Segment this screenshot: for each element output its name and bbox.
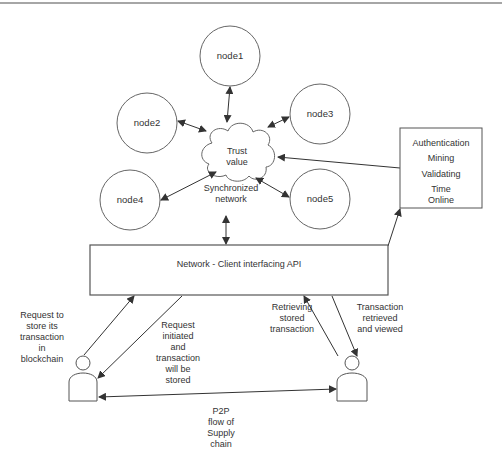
api-label: Network - Client interfacing API [90,259,388,270]
metrics-validating: Validating [400,169,482,180]
diagram-canvas [0,0,502,465]
right-request-line: stored [262,313,322,324]
trust-label-line2: value [217,157,257,168]
edge-api-metrics [388,209,400,246]
node3-label: node3 [290,108,350,120]
metrics-mining: Mining [400,153,482,164]
p2p-label: P2P flow of Supply chain [196,406,246,450]
right-request-label: Retrieving stored transaction [262,302,322,335]
edge-p2p [99,389,336,397]
p2p-line: flow of [196,417,246,428]
api-box [90,245,388,295]
right-request-line: transaction [262,324,322,335]
node5-label: node5 [290,193,350,205]
left-request-line: transaction [14,332,70,343]
node2-label: node2 [117,117,177,129]
right-response-label: Transaction retrieved and viewed [345,302,415,335]
edge-left-request [84,296,134,355]
left-response-line: and [148,342,208,353]
left-response-line: Request [148,320,208,331]
left-request-line: Request to [14,310,70,321]
left-response-line: initiated [148,331,208,342]
p2p-line: P2P [196,406,246,417]
left-response-line: transaction [148,353,208,364]
edge-node3-cloud [268,117,289,127]
left-request-line: in [14,343,70,354]
right-response-line: retrieved [345,313,415,324]
sync-line2: network [196,194,266,205]
node1-label: node1 [200,50,260,62]
sync-line1: Synchronized [196,183,266,194]
trust-value-label: Trust value [217,146,257,168]
edge-metrics-cloud [278,157,400,168]
p2p-line: Supply [196,428,246,439]
left-request-line: blockchain [14,354,70,365]
left-response-line: will be [148,364,208,375]
node4-label: node4 [100,194,160,206]
metrics-online: Online [400,195,482,206]
right-response-line: and viewed [345,324,415,335]
left-request-line: store its [14,321,70,332]
metrics-authentication: Authentication [400,138,482,149]
right-request-line: Retrieving [262,302,322,313]
edge-node1-cloud [227,87,230,122]
sync-network-label: Synchronized network [196,183,266,205]
left-response-line: stored [148,375,208,386]
left-user-icon [69,356,97,401]
left-request-label: Request to store its transaction in bloc… [14,310,70,365]
trust-label-line1: Trust [217,146,257,157]
left-response-label: Request initiated and transaction will b… [148,320,208,386]
edge-node2-cloud [178,121,206,131]
right-user-icon [337,356,367,401]
p2p-line: chain [196,439,246,450]
metrics-time: Time [400,184,482,195]
right-response-line: Transaction [345,302,415,313]
